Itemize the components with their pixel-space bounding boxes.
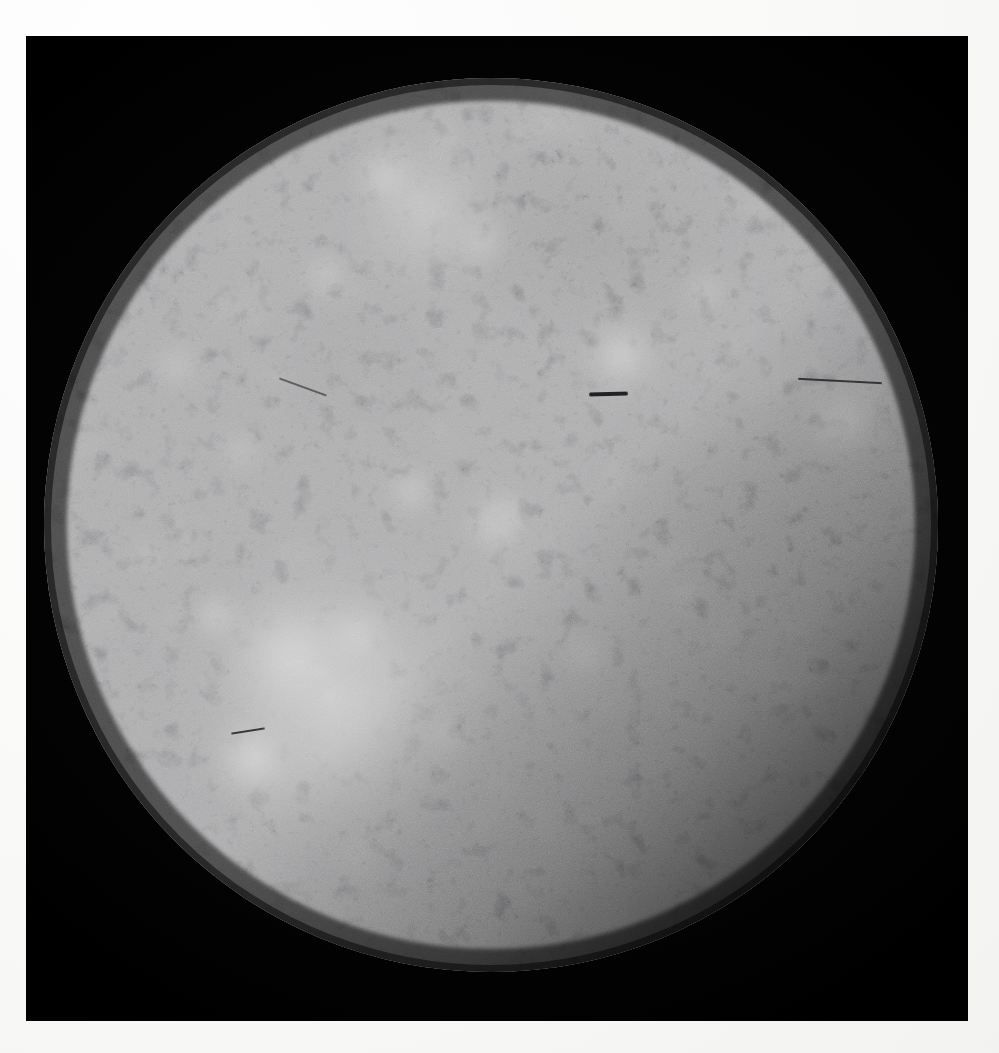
disk-surface [26,36,968,1021]
photograph-frame [26,36,968,1021]
terminator-shading [26,36,968,1021]
callisto-disk [26,36,968,1021]
photo-page [0,0,999,1053]
callisto-disk-svg [26,36,968,1021]
